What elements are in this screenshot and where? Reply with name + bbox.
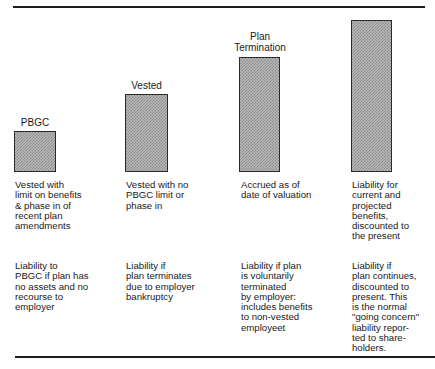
basis-pbgc: Vested with limit on benefits & phase in… <box>15 180 82 231</box>
bar-label-pbgc: PBGC <box>14 117 56 128</box>
meaning-plan-termination: Liability if plan is voluntarily termina… <box>241 261 312 333</box>
basis-vested: Vested with no PBGC limit or phase in <box>126 180 188 211</box>
bar-label-vested: Vested <box>120 80 173 91</box>
meaning-vested: Liability if plan terminates due to empl… <box>126 261 195 302</box>
bar-label-plan-termination: Plan Termination <box>229 31 291 53</box>
basis-plan-termination: Accrued as of date of valuation <box>241 180 311 201</box>
basis-going-concern: Liability for current and projected bene… <box>352 180 409 242</box>
bar-pbgc <box>14 131 56 172</box>
meaning-pbgc: Liability to PBGC if plan has no assets … <box>15 261 89 312</box>
top-rule <box>13 6 425 8</box>
bar-going-concern <box>351 20 392 172</box>
bottom-rule <box>15 356 435 358</box>
bar-plan-termination <box>239 57 280 172</box>
bar-vested <box>125 94 168 172</box>
meaning-going-concern: Liability if plan continues, discounted … <box>352 261 419 354</box>
